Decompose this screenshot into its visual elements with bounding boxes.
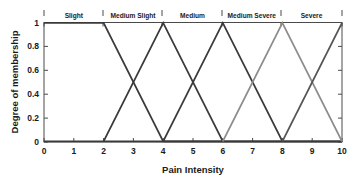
x-tick-label-4: 4	[161, 146, 166, 156]
x-tick-label-0: 0	[42, 146, 47, 156]
x-tick-label-6: 6	[220, 146, 225, 156]
region-label-severe: Severe	[301, 12, 323, 19]
fuzzy-membership-chart: Slight Medium Slight Medium Medium Sever…	[0, 0, 356, 193]
y-tick-label-0-8: 0.8	[27, 41, 39, 51]
y-tick-label-0-2: 0.2	[27, 113, 39, 123]
y-tick-label-1: 1	[34, 18, 39, 28]
x-tick-label-7: 7	[250, 146, 255, 156]
region-label-slight: Slight	[65, 12, 84, 20]
x-tick-label-1: 1	[71, 146, 76, 156]
x-tick-label-9: 9	[310, 146, 315, 156]
region-label-medium: Medium	[180, 12, 205, 19]
x-axis-title: Pain Intensity	[162, 164, 224, 175]
y-axis-title: Degree of membership	[9, 30, 20, 133]
region-label-medium-slight: Medium Slight	[110, 12, 156, 20]
region-label-medium-severe: Medium Severe	[228, 12, 277, 19]
x-tick-label-2: 2	[101, 146, 106, 156]
x-tick-label-10: 10	[337, 146, 347, 156]
x-tick-label-8: 8	[280, 146, 285, 156]
y-tick-label-0: 0	[34, 137, 39, 147]
y-tick-label-0-4: 0.4	[27, 89, 39, 99]
chart-canvas: Slight Medium Slight Medium Medium Sever…	[0, 0, 356, 193]
x-tick-label-3: 3	[131, 146, 136, 156]
y-tick-label-0-6: 0.6	[27, 65, 39, 75]
x-tick-label-5: 5	[191, 146, 196, 156]
